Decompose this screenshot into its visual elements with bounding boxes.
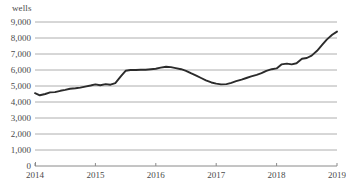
gridlines [35,22,337,166]
plot-area [0,0,346,191]
line-chart: wells 9,0008,0007,0006,0005,0004,0003,00… [0,0,346,191]
